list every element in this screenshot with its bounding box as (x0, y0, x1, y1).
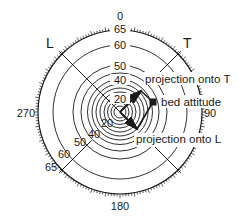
axis-label-t: T (183, 35, 192, 51)
dip-label-40-ll: 40 (88, 128, 100, 140)
dip-label-50: 50 (114, 60, 126, 72)
polar-diagram: 0 90 180 270 65 60 50 40 20 20 40 50 60 … (0, 0, 238, 221)
axis-label-l: L (46, 35, 54, 51)
azimuth-label-270: 270 (17, 107, 35, 119)
dip-labels-top: 65 60 50 40 20 (110, 22, 130, 105)
dip-label-60: 60 (114, 39, 126, 51)
dip-label-65: 65 (114, 23, 126, 35)
dip-label-50-ll: 50 (74, 136, 86, 148)
dip-label-20: 20 (114, 93, 126, 105)
annotation-projection-t: projection onto T (145, 73, 230, 85)
azimuth-label-180: 180 (111, 200, 129, 212)
dip-label-60-ll: 60 (58, 148, 70, 160)
axis-line-l (59, 51, 92, 84)
annotation-projection-l: projection onto L (136, 133, 222, 145)
bed-attitude-marker-icon (150, 99, 156, 105)
azimuth-label-90: 90 (204, 107, 216, 119)
annotation-bed-attitude: bed attitude (161, 96, 221, 108)
azimuth-label-0: 0 (117, 10, 123, 22)
dip-label-20-ll: 20 (101, 117, 113, 129)
dip-label-65-ll: 65 (45, 161, 57, 173)
dip-label-40: 40 (114, 74, 126, 86)
